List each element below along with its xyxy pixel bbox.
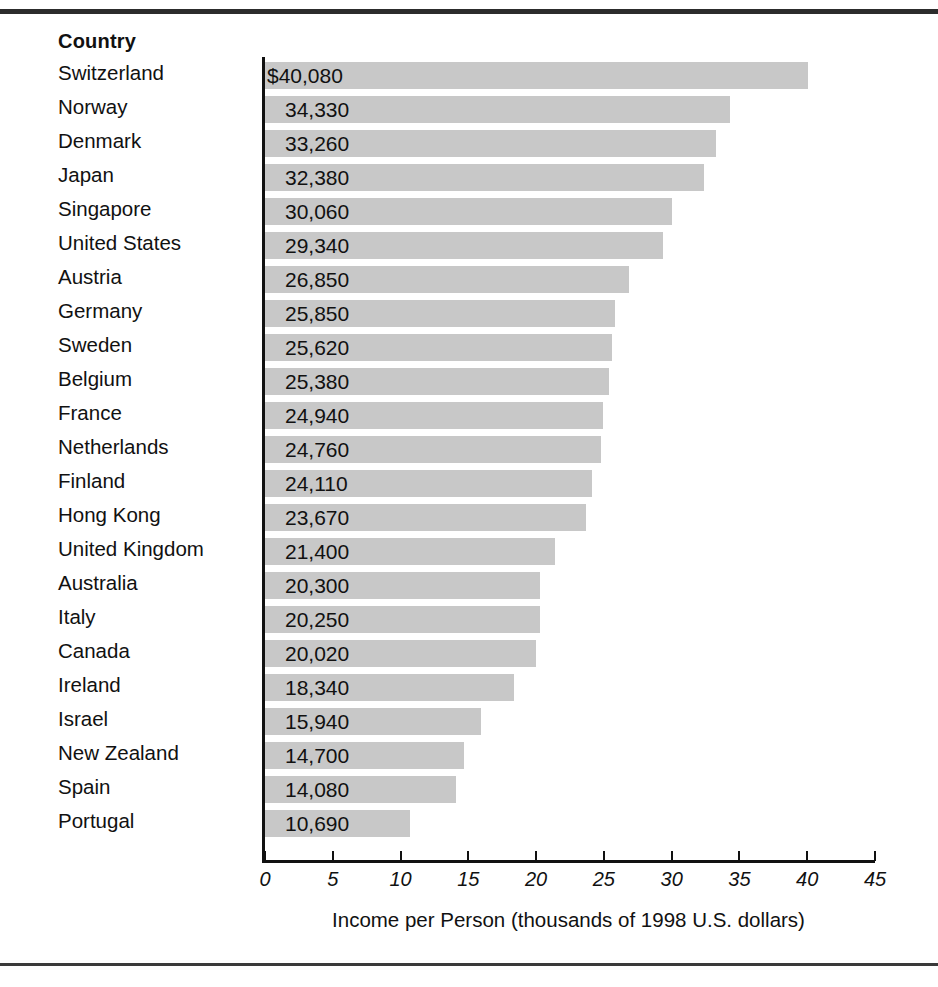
bar-value-label: 25,380 <box>285 368 349 395</box>
x-axis-caption: Income per Person (thousands of 1998 U.S… <box>262 908 875 932</box>
bar-value-label: 24,760 <box>285 436 349 463</box>
category-label: Sweden <box>58 330 258 364</box>
bar-value-label: 20,250 <box>285 606 349 633</box>
x-axis-tick <box>738 851 740 861</box>
category-label: Germany <box>58 296 258 330</box>
bar-value-label: 21,400 <box>285 538 349 565</box>
bar-value-label: 25,850 <box>285 300 349 327</box>
bar-value-label: 23,670 <box>285 504 349 531</box>
x-axis-tick-label: 25 <box>579 868 629 891</box>
category-label: Belgium <box>58 364 258 398</box>
bar-value-label: 18,340 <box>285 674 349 701</box>
category-label: Italy <box>58 602 258 636</box>
x-axis-tick-label: 40 <box>782 868 832 891</box>
x-axis-tick <box>671 851 673 861</box>
bar-value-label: 29,340 <box>285 232 349 259</box>
x-axis-tick <box>874 851 876 861</box>
category-label: Ireland <box>58 670 258 704</box>
bar-chart-plot-area: Switzerland$40,080Norway34,330Denmark33,… <box>0 0 938 987</box>
x-axis-tick <box>535 851 537 861</box>
x-axis-tick <box>332 851 334 861</box>
bar-value-label: 24,940 <box>285 402 349 429</box>
bar <box>265 62 808 89</box>
x-axis-tick-label: 10 <box>376 868 426 891</box>
category-label: Finland <box>58 466 258 500</box>
category-label: Austria <box>58 262 258 296</box>
category-label: New Zealand <box>58 738 258 772</box>
bar-value-label: 20,300 <box>285 572 349 599</box>
x-axis-tick-label: 45 <box>850 868 900 891</box>
figure-container: Country Switzerland$40,080Norway34,330De… <box>0 0 938 987</box>
bar-value-label: 32,380 <box>285 164 349 191</box>
x-axis-tick <box>806 851 808 861</box>
category-label: Netherlands <box>58 432 258 466</box>
category-label: Denmark <box>58 126 258 160</box>
category-label: United Kingdom <box>58 534 258 568</box>
category-label: Japan <box>58 160 258 194</box>
x-axis-tick-label: 0 <box>240 868 290 891</box>
category-axis-line <box>262 860 875 863</box>
bar-value-label: 10,690 <box>285 810 349 837</box>
x-axis-tick-label: 20 <box>511 868 561 891</box>
x-axis-tick-label: 15 <box>443 868 493 891</box>
x-axis-tick <box>603 851 605 861</box>
x-axis-tick <box>467 851 469 861</box>
x-axis-tick <box>400 851 402 861</box>
category-label: United States <box>58 228 258 262</box>
bar-value-label: 14,700 <box>285 742 349 769</box>
category-label: Portugal <box>58 806 258 840</box>
bar-value-label: 26,850 <box>285 266 349 293</box>
bar-value-label: 15,940 <box>285 708 349 735</box>
category-label: France <box>58 398 258 432</box>
category-label: Australia <box>58 568 258 602</box>
bar-value-label: 20,020 <box>285 640 349 667</box>
bar-value-label: 34,330 <box>285 96 349 123</box>
category-label: Norway <box>58 92 258 126</box>
category-label: Singapore <box>58 194 258 228</box>
x-axis-tick-label: 30 <box>647 868 697 891</box>
bar-value-label: $40,080 <box>267 62 343 89</box>
bar-value-label: 24,110 <box>285 470 348 497</box>
bar-value-label: 33,260 <box>285 130 349 157</box>
bar-value-label: 14,080 <box>285 776 349 803</box>
category-label: Israel <box>58 704 258 738</box>
category-label: Hong Kong <box>58 500 258 534</box>
category-label: Canada <box>58 636 258 670</box>
bar-value-label: 25,620 <box>285 334 349 361</box>
x-axis-tick <box>264 851 266 861</box>
bar-value-label: 30,060 <box>285 198 349 225</box>
x-axis-tick-label: 5 <box>308 868 358 891</box>
category-label: Switzerland <box>58 58 258 92</box>
category-label: Spain <box>58 772 258 806</box>
x-axis-tick-label: 35 <box>714 868 764 891</box>
